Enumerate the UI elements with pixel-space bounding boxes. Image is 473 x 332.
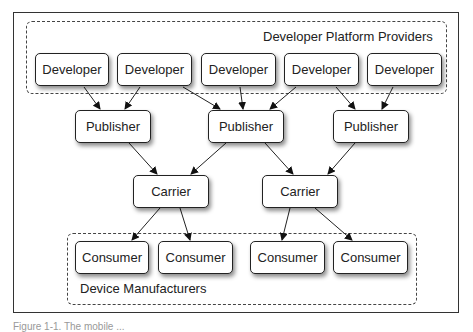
consumer-node-4: Consumer xyxy=(333,241,408,274)
developer-node-5: Developer xyxy=(367,53,442,86)
developer-node-2: Developer xyxy=(117,53,192,86)
consumer-node-3: Consumer xyxy=(250,241,325,274)
figure-caption: Figure 1-1. The mobile ... xyxy=(13,321,125,332)
publisher-node-1: Publisher xyxy=(75,110,151,143)
consumer-node-2: Consumer xyxy=(158,241,233,274)
developer-node-1: Developer xyxy=(35,53,109,86)
developer-node-4: Developer xyxy=(284,53,359,86)
carrier-node-2: Carrier xyxy=(262,175,338,208)
consumer-node-1: Consumer xyxy=(75,241,149,274)
developer-node-3: Developer xyxy=(201,53,276,86)
publisher-node-2: Publisher xyxy=(208,110,284,143)
publisher-node-3: Publisher xyxy=(333,110,409,143)
carrier-node-1: Carrier xyxy=(133,175,209,208)
